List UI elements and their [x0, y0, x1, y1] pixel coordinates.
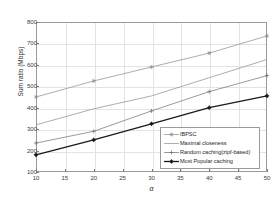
- legend-label: IBPSC: [180, 132, 197, 138]
- x-tick-mark: [94, 169, 95, 172]
- gridline-vertical: [95, 23, 96, 171]
- legend-item[interactable]: Random caching(zipf-based): [163, 148, 257, 157]
- y-tick-label: 700: [11, 40, 37, 46]
- legend-marker-icon: [163, 130, 180, 139]
- legend-marker-icon: [163, 157, 180, 166]
- x-tick-label: 45: [228, 175, 248, 181]
- y-tick-label: 500: [11, 83, 37, 89]
- legend-label: Random caching(zipf-based): [180, 150, 250, 156]
- y-tick-mark: [36, 43, 39, 44]
- gridline-horizontal: [37, 44, 266, 45]
- legend-item[interactable]: Most Popular caching: [163, 157, 257, 166]
- gridline-vertical: [124, 23, 125, 171]
- y-tick-mark: [36, 129, 39, 130]
- gridline-vertical: [153, 23, 154, 171]
- x-axis-title: α: [36, 185, 267, 192]
- y-tick-label: 400: [11, 105, 37, 111]
- y-tick-mark: [36, 108, 39, 109]
- gridline-horizontal: [37, 109, 266, 110]
- y-tick-label: 300: [11, 126, 37, 132]
- x-tick-label: 50: [257, 175, 277, 181]
- legend-item[interactable]: IBPSC: [163, 130, 257, 139]
- chart-figure: Sum ratio (Mbps) α 100200300400500600700…: [0, 0, 277, 199]
- x-tick-mark: [238, 169, 239, 172]
- y-tick-mark: [36, 86, 39, 87]
- x-tick-label: 35: [170, 175, 190, 181]
- gridline-horizontal: [37, 87, 266, 88]
- y-tick-mark: [36, 65, 39, 66]
- x-tick-label: 25: [113, 175, 133, 181]
- x-tick-mark: [267, 169, 268, 172]
- x-tick-label: 20: [84, 175, 104, 181]
- y-tick-label: 800: [11, 19, 37, 25]
- legend-marker-icon: [163, 148, 180, 157]
- y-tick-label: 600: [11, 62, 37, 68]
- y-tick-mark: [36, 151, 39, 152]
- legend-marker-icon: [163, 139, 180, 148]
- y-tick-mark: [36, 172, 39, 173]
- gridline-horizontal: [37, 66, 266, 67]
- x-tick-mark: [209, 169, 210, 172]
- legend-label: Maximal closeness: [180, 141, 226, 147]
- legend-label: Most Popular caching: [180, 159, 233, 165]
- gridline-vertical: [66, 23, 67, 171]
- x-tick-mark: [180, 169, 181, 172]
- x-tick-mark: [123, 169, 124, 172]
- legend-item[interactable]: Maximal closeness: [163, 139, 257, 148]
- x-tick-mark: [65, 169, 66, 172]
- chart-legend: IBPSCMaximal closenessRandom caching(zip…: [160, 127, 260, 169]
- x-tick-label: 30: [142, 175, 162, 181]
- x-tick-mark: [36, 169, 37, 172]
- x-tick-label: 10: [26, 175, 46, 181]
- y-tick-label: 200: [11, 148, 37, 154]
- y-tick-mark: [36, 22, 39, 23]
- x-tick-mark: [152, 169, 153, 172]
- x-tick-label: 15: [55, 175, 75, 181]
- x-tick-label: 40: [199, 175, 219, 181]
